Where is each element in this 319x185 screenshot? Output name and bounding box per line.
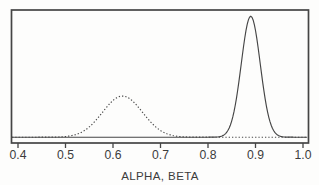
solid-density-curve xyxy=(12,16,307,137)
plot-frame xyxy=(12,10,309,143)
x-axis-ticks: 0.40.50.60.70.80.91.0 xyxy=(10,143,312,162)
density-curves xyxy=(12,16,307,137)
x-tick-label: 0.8 xyxy=(200,148,217,162)
x-tick-label: 0.7 xyxy=(152,148,169,162)
x-tick-label: 0.5 xyxy=(57,148,74,162)
x-tick-label: 0.4 xyxy=(10,148,27,162)
density-plot-svg: 0.40.50.60.70.80.91.0 ALPHA, BETA xyxy=(0,0,319,185)
dashed-density-curve xyxy=(12,96,307,137)
density-figure: 0.40.50.60.70.80.91.0 ALPHA, BETA xyxy=(0,0,319,185)
x-tick-label: 1.0 xyxy=(295,148,312,162)
x-tick-label: 0.6 xyxy=(105,148,122,162)
x-tick-label: 0.9 xyxy=(247,148,264,162)
x-axis-label: ALPHA, BETA xyxy=(121,170,199,182)
